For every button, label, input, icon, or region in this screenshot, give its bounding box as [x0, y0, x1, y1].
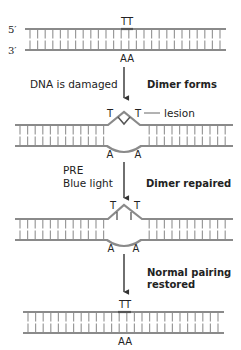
restored-label: restored	[147, 279, 195, 290]
lesion-label: lesion	[164, 107, 195, 119]
normal-pairing-label: Normal pairing	[147, 267, 231, 278]
dimer-forms-label: Dimer forms	[147, 79, 217, 90]
thymine-left-label: T	[109, 200, 117, 211]
dna-repair-diagram: 5′ 3′ TT AA DNA is damaged Dimer forms T…	[0, 0, 241, 350]
thymine-right-label: T	[133, 200, 141, 211]
five-prime-label: 5′	[8, 24, 17, 35]
dna-panel-dimer: T T A A lesion	[15, 107, 233, 160]
dimer-crosslink	[118, 117, 130, 124]
adenine-right-label: A	[135, 149, 142, 160]
top-strand-kinked	[15, 205, 233, 219]
thymine-pair-label: TT	[120, 16, 134, 27]
blue-light-label: Blue light	[63, 177, 113, 189]
thymine-right-label: T	[134, 108, 142, 119]
adenine-pair-label: AA	[118, 336, 132, 347]
dimer-repaired-label: Dimer repaired	[146, 178, 231, 189]
base-pair-rungs	[20, 220, 225, 239]
dna-panel-restored: TT AA	[23, 299, 224, 347]
dna-panel-repaired: T T A A	[15, 200, 233, 254]
dna-panel-original: 5′ 3′ TT AA	[8, 16, 226, 64]
bottom-strand-bulged	[15, 240, 233, 246]
adenine-pair-label: AA	[120, 53, 134, 64]
base-pair-rungs	[28, 313, 218, 332]
bottom-strand-bulged	[15, 146, 233, 152]
three-prime-label: 3′	[8, 45, 17, 56]
thymine-pair-label: TT	[118, 299, 132, 310]
thymine-left-label: T	[106, 108, 114, 119]
adenine-left-label: A	[108, 243, 115, 254]
base-pair-rungs	[30, 30, 220, 49]
adenine-right-label: A	[133, 243, 140, 254]
base-pair-rungs	[20, 126, 225, 145]
dna-damaged-label: DNA is damaged	[30, 78, 118, 90]
adenine-left-label: A	[107, 149, 114, 160]
pre-enzyme-label: PRE	[63, 164, 83, 176]
